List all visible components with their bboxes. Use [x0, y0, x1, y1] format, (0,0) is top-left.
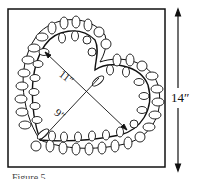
figure-caption: Figure 5: [12, 172, 46, 179]
feather-heart: [15, 16, 164, 155]
block-size-label: 14″: [171, 90, 189, 106]
feathered-heart-diagram: [0, 0, 198, 179]
